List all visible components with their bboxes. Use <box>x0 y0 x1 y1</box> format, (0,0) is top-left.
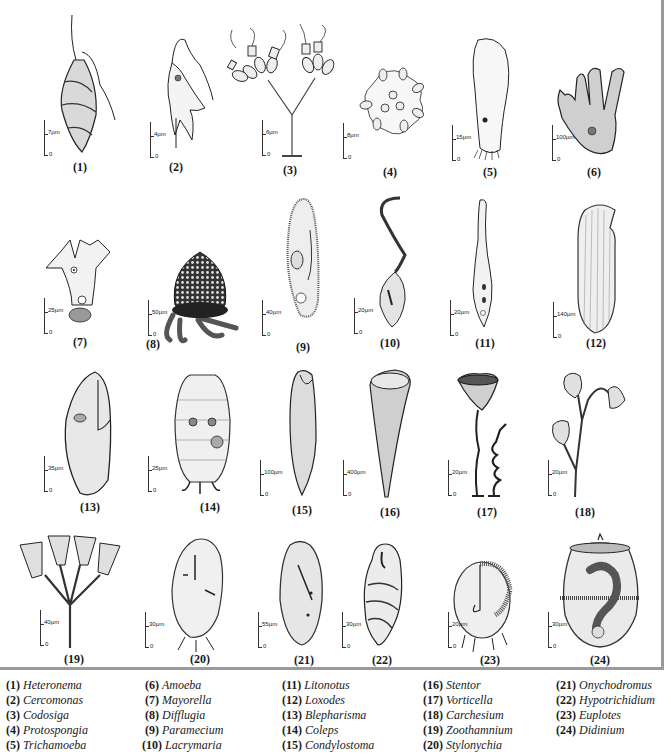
scale-label: 15µm <box>456 134 471 140</box>
scale-zero: 0 <box>453 643 456 649</box>
panel-number: (24) <box>580 653 620 668</box>
scale-zero: 0 <box>267 151 270 157</box>
scale-bar: 15µm 0 <box>452 125 492 165</box>
scale-bar: 4µm 0 <box>150 122 190 162</box>
scale-label: 20µm <box>454 309 469 315</box>
scale-zero: 0 <box>453 491 456 497</box>
legend-item: (22) Hypotrichidium <box>556 693 655 708</box>
panel-number: (10) <box>370 336 410 351</box>
panel-number: (20) <box>180 652 220 667</box>
legend-column-3: (11) Litonotus (12) Loxodes (13) Blephar… <box>282 678 374 753</box>
scale-bar: 7µm 0 <box>44 120 84 160</box>
scale-bar: 8µm 0 <box>343 123 383 163</box>
legend-item: (16) Stentor <box>423 678 513 693</box>
legend-item: (24) Didinium <box>556 723 655 738</box>
scale-label: 20µm <box>452 621 467 627</box>
panel-number: (7) <box>60 335 100 350</box>
legend-column-1: (1) Heteronema (2) Cercomonas (3) Codosi… <box>6 678 88 753</box>
scale-bar: 50µm 0 <box>148 300 188 340</box>
legend-item: (12) Loxodes <box>282 693 374 708</box>
legend-item: (17) Vorticella <box>423 693 513 708</box>
scale-zero: 0 <box>265 491 268 497</box>
scale-zero: 0 <box>267 331 270 337</box>
panel-number: (11) <box>465 336 505 351</box>
scale-zero: 0 <box>457 156 460 162</box>
legend-item: (9) Paramecium <box>142 723 223 738</box>
legend-item: (11) Litonotus <box>282 678 374 693</box>
scale-zero: 0 <box>153 487 156 493</box>
panel-number: (9) <box>283 340 323 355</box>
panel-number: (13) <box>70 500 110 515</box>
legend-item: (5) Trichamoeba <box>6 738 88 753</box>
scale-label: 6µm <box>266 129 278 135</box>
scale-bar: 100µm 0 <box>260 460 300 500</box>
scale-bar: 6µm 0 <box>262 120 302 160</box>
legend-item: (10) Lacrymaria <box>142 738 223 753</box>
panel-number: (2) <box>156 160 196 175</box>
scale-zero: 0 <box>150 643 153 649</box>
scale-bar: 25µm 0 <box>44 298 84 338</box>
scale-bar: 30µm 0 <box>342 612 382 652</box>
scale-bar: 20µm 0 <box>548 460 588 500</box>
legend-item: (21) Onychodromus <box>556 678 655 693</box>
scale-zero: 0 <box>553 643 556 649</box>
panel-number: (6) <box>574 165 614 180</box>
scale-label: 100µm <box>264 469 282 475</box>
scale-label: 20µm <box>452 469 467 475</box>
legend-item: (1) Heteronema <box>6 678 88 693</box>
legend-item: (3) Codosiga <box>6 708 88 723</box>
scale-zero: 0 <box>553 491 556 497</box>
scale-zero: 0 <box>49 329 52 335</box>
scale-zero: 0 <box>348 491 351 497</box>
panel-number: (15) <box>282 503 322 518</box>
scale-zero: 0 <box>49 151 52 157</box>
legend-item: (19) Zoothamnium <box>423 723 513 738</box>
scale-label: 7µm <box>48 129 60 135</box>
panel-number: (12) <box>576 336 616 351</box>
scale-label: 140µm <box>557 311 575 317</box>
scale-bar: 20µm 0 <box>450 300 490 340</box>
panel-number: (14) <box>190 500 230 515</box>
panel-number: (5) <box>470 165 510 180</box>
panel-number: (8) <box>133 337 173 352</box>
legend-item: (15) Condylostoma <box>282 738 374 753</box>
legend-item: (13) Blepharisma <box>282 708 374 723</box>
scale-zero: 0 <box>263 643 266 649</box>
legend-column-5: (21) Onychodromus (22) Hypotrichidium (2… <box>556 678 655 738</box>
legend-item: (14) Coleps <box>282 723 374 738</box>
scale-zero: 0 <box>557 156 560 162</box>
panel-number: (3) <box>270 163 310 178</box>
scale-label: 20µm <box>358 307 373 313</box>
scale-bar: 20µm 0 <box>448 612 488 652</box>
scale-zero: 0 <box>348 154 351 160</box>
scale-label: 35µm <box>48 465 63 471</box>
scale-zero: 0 <box>455 331 458 337</box>
scale-label: 30µm <box>149 621 164 627</box>
scale-bar: 25µm 0 <box>148 456 188 496</box>
scale-bar: 40µm 0 <box>262 300 302 340</box>
scale-bar: 100µm 0 <box>552 125 592 165</box>
scale-label: 55µm <box>262 621 277 627</box>
scale-zero: 0 <box>558 333 561 339</box>
panel-number: (21) <box>284 653 324 668</box>
scale-zero: 0 <box>359 329 362 335</box>
legend-item: (23) Euplotes <box>556 708 655 723</box>
legend-item: (6) Amoeba <box>142 678 223 693</box>
scale-bar: 30µm 0 <box>145 612 185 652</box>
scale-label: 40µm <box>44 619 59 625</box>
panel-number: (22) <box>362 653 402 668</box>
panel-number: (19) <box>54 652 94 667</box>
scale-zero: 0 <box>49 487 52 493</box>
scale-label: 30µm <box>346 621 361 627</box>
scale-bar: 35µm 0 <box>44 456 84 496</box>
scale-label: 40µm <box>266 309 281 315</box>
scale-bar: 30µm 0 <box>548 612 588 652</box>
scale-bar: 40µm 0 <box>40 610 80 650</box>
legend-column-4: (16) Stentor (17) Vorticella (18) Carche… <box>423 678 513 753</box>
panel-number: (1) <box>60 160 100 175</box>
scale-label: 400µm <box>347 469 365 475</box>
legend-item: (2) Cercomonas <box>6 693 88 708</box>
scale-bar: 20µm 0 <box>354 298 394 338</box>
scale-label: 4µm <box>154 131 166 137</box>
panel-number: (17) <box>467 505 507 520</box>
